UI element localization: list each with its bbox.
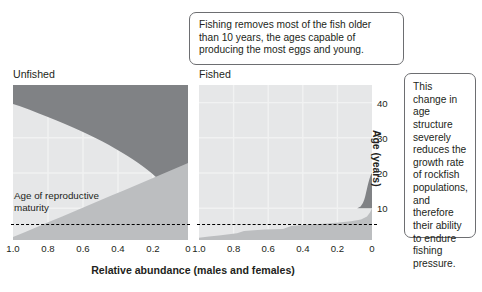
unfished-area-chart [13,85,188,240]
x-tick-label: 0.8 [41,243,54,254]
x-tick-label: 0.4 [296,243,309,254]
x-tick-label: 0.2 [331,243,344,254]
maturity-line-unfished [11,224,190,225]
x-tick-label: 0 [185,243,190,254]
x-tick-label: 1.0 [6,243,19,254]
x-tick-label: 0.2 [146,243,159,254]
callout-fishing-removes: Fishing removes most of the fish older t… [189,12,404,65]
x-tick-label: 1.0 [192,243,205,254]
callout-top-line-1: Fishing removes most of the fish older [199,19,394,32]
callout-top-line-2: than 10 years, the ages capable of [199,32,394,45]
callout-right-text: This change in age structure severely re… [413,81,468,271]
chart-panel-fished [199,85,372,240]
panel-title-fished: Fished [199,68,231,80]
y-tick-label: 10 [377,203,388,214]
fished-above-maturity-area [357,173,372,208]
x-axis-ticks-fished: 1.0 0.8 0.6 0.4 0.2 0 [199,243,372,257]
fished-gridlines [199,85,372,240]
y-tick-label: 40 [377,97,388,108]
maturity-annotation-label: Age of reproductive maturity [14,190,99,214]
x-tick-label: 0.6 [262,243,275,254]
x-tick-label: 0.4 [111,243,124,254]
callout-age-structure: This change in age structure severely re… [404,73,476,238]
x-tick-label: 0.8 [227,243,240,254]
maturity-line-fished [197,224,377,225]
x-axis-ticks-unfished: 1.0 0.8 0.6 0.4 0.2 0 [13,243,188,257]
x-tick-label: 0 [369,243,374,254]
x-axis-title: Relative abundance (males and females) [0,264,386,276]
maturity-label-line-1: Age of reproductive [14,190,99,202]
x-tick-label: 0.6 [76,243,89,254]
chart-panel-unfished [13,85,188,240]
fished-area-chart [199,85,372,240]
callout-top-line-3: producing the most eggs and young. [199,44,394,57]
y-axis-title: Age (years) [371,130,382,187]
maturity-label-line-2: maturity [14,202,99,214]
panel-title-unfished: Unfished [13,68,55,80]
